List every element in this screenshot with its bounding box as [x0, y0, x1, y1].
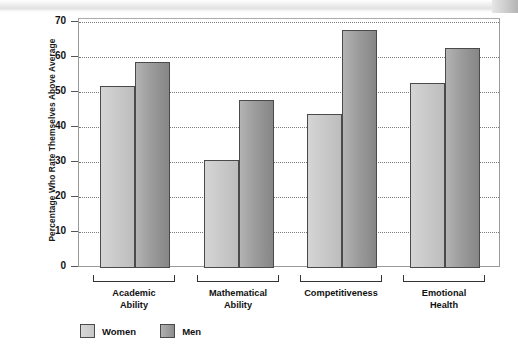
category-bracket [300, 275, 382, 282]
bar-women-mathematical-ability [204, 160, 239, 269]
category-label-line: Emotional [375, 288, 513, 300]
y-axis-tick-label: 30 [40, 155, 66, 166]
bar-men-mathematical-ability [239, 100, 274, 268]
y-axis-tick-label: 70 [40, 15, 66, 26]
category-label-line: Ability [169, 300, 307, 312]
y-axis-tick [71, 56, 78, 57]
category-bracket [93, 275, 175, 282]
y-axis-tick-label: 50 [40, 85, 66, 96]
y-axis-tick-label: 0 [40, 260, 66, 271]
category-label-emotional-health: EmotionalHealth [375, 288, 513, 311]
legend-item-women[interactable]: Women [80, 324, 136, 338]
gridline [79, 22, 499, 23]
y-axis-tick [71, 161, 78, 162]
legend-swatch-women [80, 324, 95, 338]
y-axis-tick-label: 10 [40, 225, 66, 236]
legend-swatch-men [160, 324, 175, 338]
y-axis-tick [71, 196, 78, 197]
legend-item-men[interactable]: Men [160, 324, 201, 338]
y-axis-tick [71, 21, 78, 22]
bar-women-academic-ability [100, 86, 135, 268]
y-axis-tick [71, 126, 78, 127]
bar-men-academic-ability [135, 62, 170, 269]
y-axis-tick [71, 266, 78, 267]
bar-men-emotional-health [445, 48, 480, 269]
bar-men-competitiveness [342, 30, 377, 268]
plot-area [78, 18, 500, 267]
gridline [79, 57, 499, 58]
y-axis-tick-label: 40 [40, 120, 66, 131]
category-bracket [197, 275, 279, 282]
y-axis-tick-label: 60 [40, 50, 66, 61]
bar-women-competitiveness [307, 114, 342, 268]
category-bracket [403, 275, 485, 282]
bar-women-emotional-health [410, 83, 445, 269]
legend-label: Women [102, 326, 136, 337]
y-axis-tick-label: 20 [40, 190, 66, 201]
category-label-line: Health [375, 300, 513, 312]
y-axis-tick [71, 231, 78, 232]
legend-label: Men [182, 326, 201, 337]
y-axis-tick [71, 91, 78, 92]
chart-legend: WomenMen [80, 324, 215, 338]
bar-chart-figure: Percentage Who Rate Themselves Above Ave… [0, 0, 518, 347]
